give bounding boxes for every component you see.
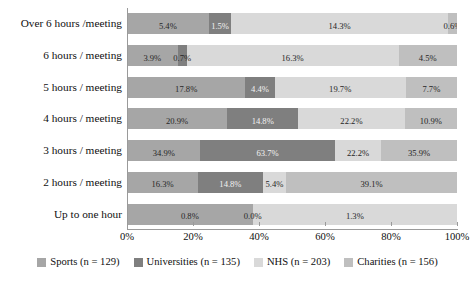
bar-row: 2 hours / meeting16.3%14.8%5.4%39.1% [0, 167, 475, 199]
x-axis-tick-label: 80% [361, 230, 421, 244]
bar-rows: Over 6 hours /meeting5.4%1.5%14.3%0.6%6 … [0, 8, 475, 230]
segment-value-label: 17.8% [175, 84, 197, 94]
segment-value-label: 4.4% [251, 84, 269, 94]
bar-segment: 3.9% [127, 45, 178, 66]
legend-swatch-icon [134, 258, 143, 267]
legend-item[interactable]: Universities (n = 135) [134, 255, 240, 269]
bar-segment: 7.7% [406, 77, 457, 98]
segment-value-label: 35.9% [408, 148, 430, 158]
segment-value-label: 39.1% [361, 179, 383, 189]
segment-value-label: 10.9% [420, 116, 442, 126]
x-axis-ticks: 0%20%40%60%80%100% [0, 230, 475, 246]
segment-value-label: 4.5% [419, 53, 437, 63]
segment-value-label: 14.3% [329, 21, 351, 31]
bar-segment: 5.4% [263, 172, 287, 193]
segment-value-label: 7.7% [422, 84, 440, 94]
legend-swatch-icon [344, 258, 353, 267]
segment-value-label: 63.7% [256, 148, 278, 158]
category-label: 3 hours / meeting [0, 144, 122, 157]
stacked-bar: 16.3%14.8%5.4%39.1% [127, 172, 457, 193]
segment-value-label: 0.0% [244, 211, 262, 221]
y-axis-line [127, 8, 128, 230]
segment-value-label: 14.8% [219, 179, 241, 189]
legend-label: Universities (n = 135) [147, 255, 240, 269]
bar-segment: 0.6% [448, 13, 457, 34]
category-label: 5 hours / meeting [0, 81, 122, 94]
segment-value-label: 0.6% [443, 21, 457, 31]
bar-segment: 22.2% [298, 108, 404, 129]
category-label: 6 hours / meeting [0, 49, 122, 62]
legend-item[interactable]: Charities (n = 156) [344, 255, 437, 269]
bar-row: Up to one hour0.8%0.0%1.3% [0, 198, 475, 230]
segment-value-label: 5.4% [266, 179, 284, 189]
stacked-bar-chart: Over 6 hours /meeting5.4%1.5%14.3%0.6%6 … [0, 0, 475, 284]
segment-value-label: 0.8% [181, 211, 199, 221]
bar-segment: 16.3% [127, 172, 198, 193]
category-label: 2 hours / meeting [0, 176, 122, 189]
segment-value-label: 3.9% [143, 53, 161, 63]
chart-legend: Sports (n = 129)Universities (n = 135)NH… [0, 252, 475, 272]
legend-swatch-icon [254, 258, 263, 267]
bar-segment: 19.7% [275, 77, 406, 98]
plot-area: Over 6 hours /meeting5.4%1.5%14.3%0.6%6 … [0, 8, 475, 230]
segment-value-label: 5.4% [159, 21, 177, 31]
bar-segment: 0.8% [127, 204, 253, 225]
bar-segment: 0.7% [178, 45, 187, 66]
stacked-bar: 17.8%4.4%19.7%7.7% [127, 77, 457, 98]
bar-segment: 5.4% [127, 13, 209, 34]
legend-label: Charities (n = 156) [357, 255, 437, 269]
segment-value-label: 16.3% [151, 179, 173, 189]
legend-swatch-icon [37, 258, 46, 267]
bar-segment: 10.9% [405, 108, 457, 129]
bar-row: Over 6 hours /meeting5.4%1.5%14.3%0.6% [0, 8, 475, 40]
bar-row: 5 hours / meeting17.8%4.4%19.7%7.7% [0, 71, 475, 103]
bar-segment: 4.5% [399, 45, 457, 66]
bar-row: 3 hours / meeting34.9%63.7%22.2%35.9% [0, 135, 475, 167]
x-axis-tick-mark [193, 222, 194, 226]
segment-value-label: 16.3% [282, 53, 304, 63]
bar-segment: 20.9% [127, 108, 227, 129]
bar-segment: 14.8% [227, 108, 298, 129]
x-axis-tick-label: 100% [427, 230, 475, 244]
stacked-bar: 34.9%63.7%22.2%35.9% [127, 140, 457, 161]
bar-row: 6 hours / meeting3.9%0.7%16.3%4.5% [0, 40, 475, 72]
stacked-bar: 20.9%14.8%22.2%10.9% [127, 108, 457, 129]
legend-label: Sports (n = 129) [50, 255, 119, 269]
legend-item[interactable]: Sports (n = 129) [37, 255, 119, 269]
segment-value-label: 20.9% [166, 116, 188, 126]
bar-segment: 1.3% [253, 204, 457, 225]
bar-segment: 63.7% [200, 140, 334, 161]
category-label: Over 6 hours /meeting [0, 17, 122, 30]
bar-segment: 35.9% [381, 140, 457, 161]
segment-value-label: 22.2% [340, 116, 362, 126]
x-axis-tick-label: 20% [163, 230, 223, 244]
segment-value-label: 34.9% [153, 148, 175, 158]
bar-segment: 16.3% [187, 45, 399, 66]
segment-value-label: 19.7% [329, 84, 351, 94]
segment-value-label: 1.3% [346, 211, 364, 221]
bar-segment: 22.2% [335, 140, 382, 161]
stacked-bar: 0.8%0.0%1.3% [127, 204, 457, 225]
legend-label: NHS (n = 203) [267, 255, 330, 269]
segment-value-label: 1.5% [211, 21, 229, 31]
x-axis-tick-label: 60% [295, 230, 355, 244]
bar-segment: 4.4% [245, 77, 274, 98]
segment-value-label: 0.7% [173, 53, 191, 63]
x-axis-tick-mark [259, 222, 260, 226]
category-label: Up to one hour [0, 208, 122, 221]
x-axis-tick-label: 40% [229, 230, 289, 244]
bar-segment: 17.8% [127, 77, 245, 98]
legend-item[interactable]: NHS (n = 203) [254, 255, 330, 269]
stacked-bar: 5.4%1.5%14.3%0.6% [127, 13, 457, 34]
bar-segment: 14.8% [198, 172, 263, 193]
bar-segment: 39.1% [286, 172, 457, 193]
bar-segment: 34.9% [127, 140, 200, 161]
segment-value-label: 14.8% [252, 116, 274, 126]
x-axis-tick-mark [391, 222, 392, 226]
bar-segment: 1.5% [209, 13, 232, 34]
segment-value-label: 22.2% [347, 148, 369, 158]
x-axis-tick-mark [325, 222, 326, 226]
x-axis-tick-label: 0% [97, 230, 157, 244]
category-label: 4 hours / meeting [0, 112, 122, 125]
x-axis-tick-mark [457, 222, 458, 226]
